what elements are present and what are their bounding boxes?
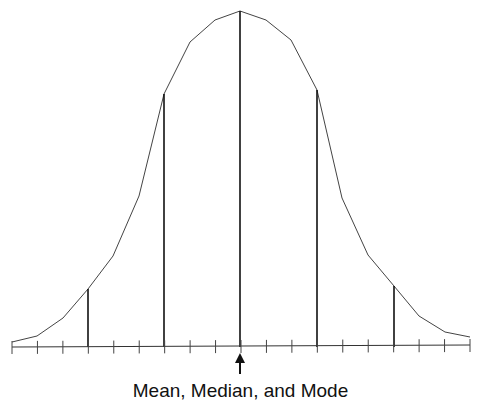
x-axis xyxy=(12,339,470,354)
caption-label: Mean, Median, and Mode xyxy=(0,380,481,402)
bell-curve-diagram xyxy=(0,0,481,416)
vertical-markers xyxy=(88,11,394,347)
arrow-icon xyxy=(235,353,245,374)
bell-curve xyxy=(12,11,470,342)
